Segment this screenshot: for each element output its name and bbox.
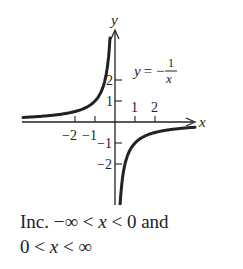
svg-text:1: 1	[168, 56, 174, 70]
function-graph: −2−11212−1−2 x y y= − 1 x	[0, 0, 243, 205]
function-label: y= − 1 x	[132, 56, 177, 86]
caption-line-2: 0 < x < ∞	[20, 234, 169, 259]
x-tick-label: −1	[82, 128, 97, 143]
x-tick-label: 1	[131, 100, 138, 115]
y-tick-label: 1	[106, 94, 113, 109]
caption: Inc. −∞ < x < 0 and 0 < x < ∞	[20, 209, 169, 259]
x-tick-label: −2	[62, 128, 77, 143]
svg-text:y= −: y= −	[132, 63, 164, 79]
svg-text:x: x	[165, 71, 172, 86]
x-tick-label: 2	[151, 100, 158, 115]
y-tick-label: −2	[97, 157, 112, 172]
y-axis-label: y	[109, 12, 118, 28]
y-tick-label: −1	[97, 136, 112, 151]
left-branch-curve	[23, 38, 110, 117]
x-axis-label: x	[198, 114, 206, 130]
caption-line-1: Inc. −∞ < x < 0 and	[20, 209, 169, 234]
right-branch-curve	[120, 127, 195, 205]
